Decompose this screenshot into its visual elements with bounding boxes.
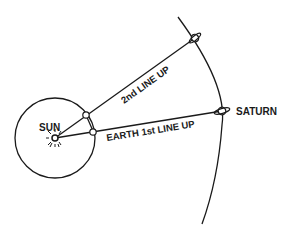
earth-position-2 [83, 112, 89, 118]
first-line-up-label: EARTH 1st LINE UP [106, 118, 196, 143]
sun-label: SUN [39, 122, 60, 133]
sun-earth-saturn-diagram: SUN SATURN 2nd LINE UP EARTH 1st LINE UP [0, 0, 295, 240]
saturn-label: SATURN [236, 106, 277, 117]
saturn-icon-right [213, 105, 230, 116]
second-line-up-label: 2nd LINE UP [119, 63, 172, 105]
earth-position-1 [90, 129, 96, 135]
